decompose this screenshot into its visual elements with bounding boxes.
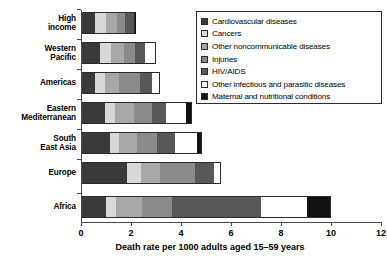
- legend-label: HIV/AIDS: [212, 67, 245, 76]
- bar-europe: [81, 162, 221, 184]
- legend-label: Other noncommunicable diseases: [212, 42, 330, 51]
- x-tick: [231, 222, 232, 226]
- x-tick: [381, 222, 382, 226]
- legend-item: HIV/AIDS: [201, 65, 377, 78]
- segment-injuries: [119, 72, 140, 94]
- segment-hiv-aids: [195, 162, 214, 184]
- bar-africa: [81, 196, 331, 218]
- segment-hiv-aids: [172, 196, 261, 218]
- category-label-line: Europe: [0, 168, 76, 177]
- cancers-swatch: [201, 30, 208, 37]
- y-axis-tick: [77, 99, 81, 100]
- segment-maternal-nutritional: [197, 132, 202, 154]
- stacked-bar-chart: HighincomeWesternPacificAmericasEasternM…: [0, 0, 387, 259]
- segment-cancers: [95, 12, 106, 34]
- segment-cardiovascular: [81, 72, 95, 94]
- legend-label: Cancers: [212, 29, 241, 38]
- segment-cardiovascular: [81, 162, 127, 184]
- segment-maternal-nutritional: [220, 162, 221, 184]
- legend-item: Other infectious and parasitic diseases: [201, 78, 377, 91]
- category-label-south-east-asia: SouthEast Asia: [0, 134, 76, 152]
- segment-cancers: [105, 102, 115, 124]
- x-tick-label: 2: [119, 228, 143, 238]
- legend-item: Other noncommunicable diseases: [201, 40, 377, 53]
- segment-other-noncommunicable: [115, 102, 134, 124]
- category-label-line: Americas: [0, 78, 76, 87]
- category-label-high-income: Highincome: [0, 14, 76, 32]
- x-tick-label: 0: [69, 228, 93, 238]
- segment-other-infectious: [175, 132, 198, 154]
- segment-cancers: [100, 42, 111, 64]
- segment-maternal-nutritional: [186, 102, 192, 124]
- segment-other-infectious: [166, 102, 186, 124]
- category-label-africa: Africa: [0, 202, 76, 211]
- x-tick-label: 12: [369, 228, 387, 238]
- bar-western-pacific: [81, 42, 156, 64]
- legend-label: Injuries: [212, 55, 237, 64]
- category-label-line: High: [0, 14, 76, 23]
- category-label-line: East Asia: [0, 143, 76, 152]
- segment-injuries: [134, 102, 153, 124]
- segment-other-noncommunicable: [119, 132, 138, 154]
- segment-injuries: [117, 12, 125, 34]
- y-axis-tick: [77, 69, 81, 70]
- y-axis-tick: [77, 9, 81, 10]
- segment-injuries: [142, 196, 172, 218]
- segment-cardiovascular: [81, 12, 95, 34]
- category-label-line: income: [0, 23, 76, 32]
- y-axis-line: [81, 10, 82, 223]
- segment-hiv-aids: [152, 102, 166, 124]
- segment-other-noncommunicable: [141, 162, 160, 184]
- y-axis-tick: [77, 129, 81, 130]
- segment-hiv-aids: [157, 132, 175, 154]
- segment-other-noncommunicable: [106, 12, 117, 34]
- segment-cancers: [110, 132, 119, 154]
- segment-other-infectious: [145, 42, 155, 64]
- segment-injuries: [124, 42, 135, 64]
- segment-other-noncommunicable: [111, 42, 124, 64]
- segment-maternal-nutritional: [159, 72, 160, 94]
- cvd-swatch: [201, 18, 208, 25]
- x-tick: [81, 222, 82, 226]
- legend-item: Injuries: [201, 53, 377, 66]
- segment-other-noncommunicable: [105, 72, 119, 94]
- x-tick-label: 6: [219, 228, 243, 238]
- y-axis-tick: [77, 39, 81, 40]
- legend-label: Cardiovascular diseases: [212, 17, 297, 26]
- category-label-line: Eastern: [0, 104, 76, 113]
- legend-label: Maternal and nutritional conditions: [212, 92, 330, 101]
- category-label-line: Mediterranean: [0, 113, 76, 122]
- y-axis-tick: [77, 159, 81, 160]
- x-tick-label: 8: [269, 228, 293, 238]
- segment-cancers: [106, 196, 116, 218]
- segment-maternal-nutritional: [155, 42, 156, 64]
- category-label-line: South: [0, 134, 76, 143]
- legend-label: Other infectious and parasitic diseases: [212, 80, 345, 89]
- category-label-western-pacific: WesternPacific: [0, 44, 76, 62]
- x-axis-title: Death rate per 1000 adults aged 15–59 ye…: [60, 242, 360, 252]
- segment-injuries: [137, 132, 157, 154]
- category-label-line: Africa: [0, 202, 76, 211]
- segment-hiv-aids: [140, 72, 153, 94]
- chart-legend: Cardiovascular diseasesCancersOther nonc…: [196, 11, 382, 104]
- segment-other-noncommunicable: [116, 196, 142, 218]
- segment-cardiovascular: [81, 132, 110, 154]
- legend-item: Cancers: [201, 28, 377, 41]
- noncommunicable-swatch: [201, 43, 208, 50]
- other-infectious-swatch: [201, 81, 208, 88]
- x-tick: [331, 222, 332, 226]
- x-tick: [131, 222, 132, 226]
- legend-item: Maternal and nutritional conditions: [201, 91, 377, 104]
- category-axis-labels: HighincomeWesternPacificAmericasEasternM…: [0, 10, 76, 222]
- segment-maternal-nutritional: [307, 196, 331, 218]
- segment-cancers: [95, 72, 105, 94]
- segment-cardiovascular: [81, 42, 100, 64]
- segment-injuries: [160, 162, 195, 184]
- legend-item: Cardiovascular diseases: [201, 15, 377, 28]
- segment-maternal-nutritional: [135, 12, 136, 34]
- segment-cardiovascular: [81, 102, 105, 124]
- segment-cardiovascular: [81, 196, 106, 218]
- bar-high-income: [81, 12, 135, 34]
- x-tick: [281, 222, 282, 226]
- maternal-swatch: [201, 93, 208, 100]
